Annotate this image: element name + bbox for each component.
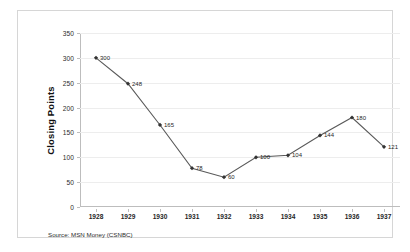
data-point-label: 144 [324, 132, 334, 138]
data-point-label: 78 [196, 165, 203, 171]
x-axis-tick-label: 1933 [249, 213, 264, 220]
plot-area: 3002481657860100104144180121 [80, 33, 400, 207]
x-axis-tick-mark [288, 209, 289, 212]
x-axis-tick-label: 1931 [185, 213, 200, 220]
y-axis-tick-mark [77, 207, 80, 208]
y-axis-tick-label: 0 [70, 204, 74, 211]
x-axis-tick-label: 1928 [89, 213, 104, 220]
y-axis-tick-label: 300 [63, 54, 74, 61]
y-axis-tick-label: 100 [63, 154, 74, 161]
y-axis-tick-label: 200 [63, 104, 74, 111]
data-point-label: 180 [356, 115, 366, 121]
y-axis-tick-labels: 050100150200250300350 [18, 33, 74, 207]
source-caption: Source: MSN Money (CSNBC) [48, 231, 133, 238]
data-point-label: 300 [100, 55, 110, 61]
x-axis-tick-label: 1934 [281, 213, 296, 220]
line-series [80, 33, 400, 207]
y-axis-tick-label: 350 [63, 30, 74, 37]
y-axis-tick-label: 150 [63, 129, 74, 136]
y-axis-tick-label: 250 [63, 79, 74, 86]
data-point-label: 60 [228, 174, 235, 180]
y-axis-tick-label: 50 [66, 179, 74, 186]
data-point-label: 104 [292, 152, 302, 158]
x-axis-tick-mark [192, 209, 193, 212]
x-axis-tick-mark [256, 209, 257, 212]
data-point-label: 100 [260, 154, 270, 160]
data-point-label: 248 [132, 81, 142, 87]
x-axis-tick-mark [352, 209, 353, 212]
chart-figure: Closing Points 050100150200250300350 300… [0, 0, 410, 252]
data-point-label: 121 [388, 144, 398, 150]
x-axis-tick-label: 1937 [377, 213, 392, 220]
x-axis-tick-label: 1930 [153, 213, 168, 220]
x-axis-tick-mark [128, 209, 129, 212]
x-axis-tick-mark [320, 209, 321, 212]
x-axis-tick-mark [224, 209, 225, 212]
x-axis-tick-labels: 1928192919301931193219331934193519361937 [80, 209, 400, 225]
x-axis-tick-label: 1935 [313, 213, 328, 220]
x-axis-tick-mark [96, 209, 97, 212]
data-point-label: 165 [164, 122, 174, 128]
x-axis-tick-mark [384, 209, 385, 212]
series-line [96, 58, 384, 177]
chart-frame: Closing Points 050100150200250300350 300… [17, 10, 393, 238]
x-axis-tick-mark [160, 209, 161, 212]
x-axis-tick-label: 1929 [121, 213, 136, 220]
x-axis-tick-label: 1932 [217, 213, 232, 220]
x-axis-tick-label: 1936 [345, 213, 360, 220]
